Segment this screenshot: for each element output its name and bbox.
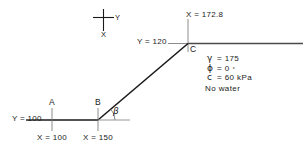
degree-symbol: ° [233, 66, 235, 72]
point-label-b: B [95, 98, 101, 107]
gamma-symbol: γ [207, 53, 214, 63]
no-water-note: No water [205, 85, 240, 93]
point-a-x-coordinate-label: X = 100 [37, 134, 67, 142]
soil-property-cohesion: c = 60 kPa [207, 72, 252, 82]
soil-property-friction-angle: ϕ = 0 ° [207, 63, 235, 73]
point-label-a: A [49, 98, 55, 107]
slope-face-line-bc [98, 44, 188, 121]
beta-angle-label: β [113, 107, 119, 116]
datum-y-coordinate-label: Y = 100 [12, 115, 42, 123]
axis-label-x: X [101, 31, 106, 39]
point-c-x-coordinate-label: X = 172.8 [186, 11, 223, 19]
cohesion-symbol: c [207, 72, 214, 82]
cohesion-value: 60 kPa [225, 73, 252, 82]
diagram-linework [0, 0, 308, 150]
equals-sign: = [217, 73, 222, 82]
point-c-y-coordinate-label: Y = 120 [137, 38, 167, 46]
axis-label-y: Y [115, 14, 120, 22]
orientation-axis-cross [93, 9, 114, 31]
point-b-x-coordinate-label: X = 150 [83, 134, 113, 142]
point-label-c: C [190, 45, 196, 54]
phi-symbol: ϕ [207, 63, 214, 73]
slope-stability-diagram: Y X X = 172.8 Y = 120 C A Y = 100 X = 10… [0, 0, 308, 150]
soil-property-unit-weight: γ = 175 [207, 53, 239, 63]
